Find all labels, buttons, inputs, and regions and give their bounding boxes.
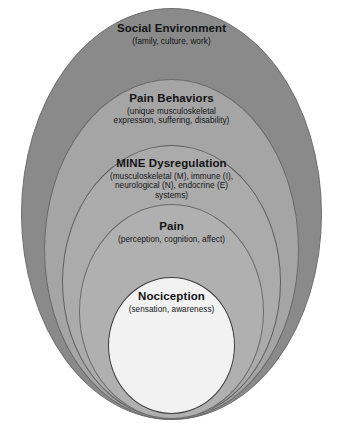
nested-pain-model-diagram: Social Environment (family, culture, wor… [0,0,343,448]
layer-nociception [108,277,235,414]
